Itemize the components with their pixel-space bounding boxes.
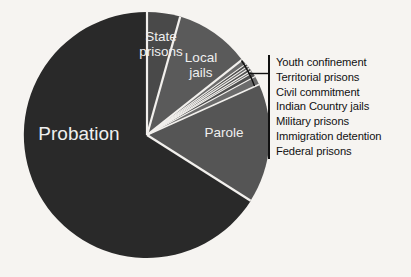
legend-item[interactable]: Territorial prisons [276,70,411,85]
legend-item[interactable]: Indian Country jails [276,99,411,114]
slice-label-state-prisons-line1: State [145,29,177,44]
legend-item[interactable]: Civil commitment [276,85,411,100]
legend-item[interactable]: Immigration detention [276,129,411,144]
slice-label-state-prisons-line2: prisons [139,44,183,59]
slice-label-parole: Parole [204,125,243,140]
pie-chart-figure: Probation State prisons Local jails Paro… [0,0,411,277]
legend-item[interactable]: Youth confinement [276,55,411,70]
legend-list: Youth confinement Territorial prisons Ci… [268,55,411,159]
legend-item[interactable]: Federal prisons [276,144,411,159]
legend-item[interactable]: Military prisons [276,114,411,129]
slice-label-local-jails-line2: jails [188,65,213,80]
slice-label-probation: Probation [38,123,119,144]
slice-label-local-jails-line1: Local [185,50,217,65]
